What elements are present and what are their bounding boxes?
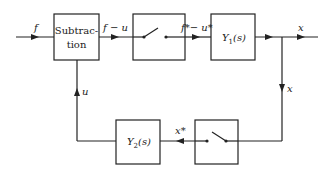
sampled-output-line <box>160 138 195 144</box>
y1-label: Y1(s) <box>222 32 246 46</box>
feedback-u-line <box>74 60 116 141</box>
y2-label: Y2(s) <box>127 136 151 150</box>
switch-icon <box>144 28 158 37</box>
subtraction-label-2: tion <box>67 39 87 50</box>
label-f: f <box>33 22 40 33</box>
label-x-tap: x <box>287 83 293 94</box>
sampler-1-block <box>133 14 185 60</box>
y2-block: Y2(s) <box>116 120 160 164</box>
label-x-output: x <box>298 22 304 33</box>
y1-block: Y1(s) <box>211 14 255 60</box>
label-x-star: x* <box>175 125 186 136</box>
error-signal-line <box>99 34 133 40</box>
input-signal-line <box>16 34 54 40</box>
subtraction-block: Subtrac- tion <box>54 14 99 60</box>
switch-icon <box>212 132 226 141</box>
label-f-minus-u: f − u <box>102 22 128 33</box>
output-signal-line <box>255 34 318 40</box>
label-sampled-error: f*− u* <box>180 22 213 33</box>
sampled-error-line <box>185 34 211 40</box>
block-diagram: f Subtrac- tion f − u f*− u* Y1(s) x <box>0 0 328 170</box>
feedback-tap-line <box>279 37 285 141</box>
subtraction-label-1: Subtrac- <box>55 25 98 36</box>
sampler-2-block <box>195 120 238 164</box>
label-u: u <box>82 86 88 97</box>
